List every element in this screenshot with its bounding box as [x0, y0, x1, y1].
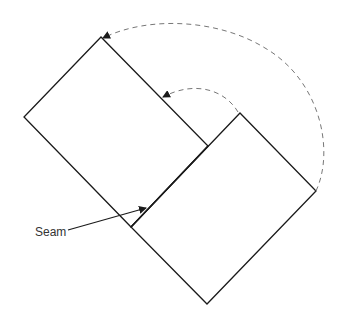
upper-left-square — [24, 37, 208, 227]
seam-line — [131, 146, 208, 227]
seam-pointer-arrow — [68, 208, 146, 230]
lower-right-square — [131, 113, 316, 304]
inner-fold-arrow — [163, 88, 238, 112]
diagram-canvas: Seam — [0, 0, 341, 319]
seam-label: Seam — [35, 225, 66, 239]
